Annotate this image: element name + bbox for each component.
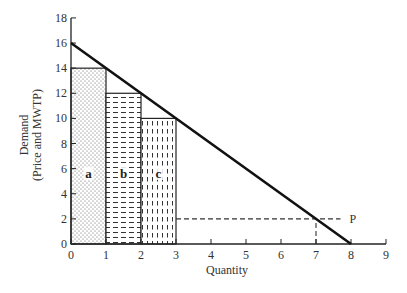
y-axis-label-line2: (Price and MWTP)	[30, 89, 44, 181]
x-tick-label: 7	[313, 248, 319, 262]
bar-c	[141, 118, 176, 244]
bars-group: abc	[71, 68, 176, 244]
y-tick-label: 4	[61, 187, 67, 201]
y-tick-label: 18	[55, 11, 67, 25]
x-tick-label: 4	[208, 248, 214, 262]
y-axis-label-line1: Demand	[17, 115, 31, 156]
y-tick-label: 12	[55, 86, 67, 100]
price-label-p: P	[350, 212, 357, 226]
x-tick-label: 6	[278, 248, 284, 262]
y-tick-label: 10	[55, 111, 67, 125]
y-tick-label: 6	[61, 162, 67, 176]
y-tick-label: 2	[61, 212, 67, 226]
x-tick-label: 8	[348, 248, 354, 262]
bar-a	[71, 68, 106, 244]
x-tick-label: 3	[173, 248, 179, 262]
bar-label-c: c	[156, 166, 162, 181]
x-tick-label: 1	[103, 248, 109, 262]
y-tick-label: 16	[55, 36, 67, 50]
bar-label-b: b	[120, 166, 127, 181]
y-tick-label: 0	[61, 237, 67, 251]
y-tick-label: 14	[55, 61, 67, 75]
x-axis-label: Quantity	[206, 263, 248, 277]
x-tick-label: 5	[243, 248, 249, 262]
y-tick-label: 8	[61, 137, 67, 151]
bar-label-a: a	[85, 166, 92, 181]
demand-chart: abc P 0123456789024681012141618 Quantity…	[0, 0, 407, 293]
x-tick-label: 2	[138, 248, 144, 262]
x-tick-label: 9	[383, 248, 389, 262]
x-tick-label: 0	[68, 248, 74, 262]
